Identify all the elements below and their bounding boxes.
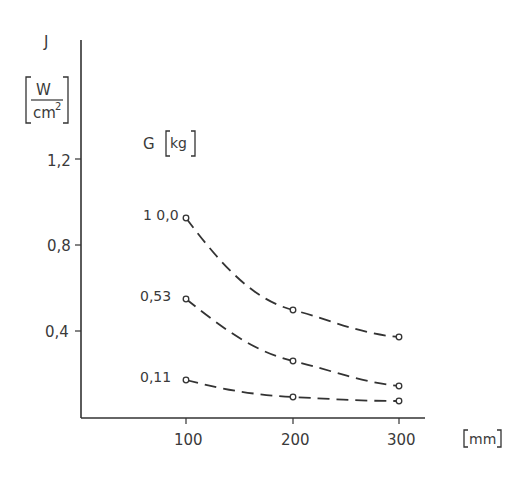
- svg-text:cm: cm: [33, 104, 56, 122]
- y-axis-symbol: J: [43, 33, 48, 51]
- chart: 1,2 0,8 0,4 100 200 300 mm J W cm 2 G kg: [0, 0, 520, 481]
- y-tick-label: 0,4: [45, 323, 69, 341]
- x-tick-label: 300: [387, 431, 416, 449]
- data-markers: [183, 215, 402, 404]
- svg-text:mm: mm: [469, 431, 496, 447]
- series-label: 1 0,0: [143, 207, 179, 223]
- x-ticks: [186, 418, 399, 424]
- svg-text:kg: kg: [170, 135, 187, 151]
- svg-text:2: 2: [55, 101, 61, 112]
- svg-text:G: G: [143, 135, 155, 153]
- svg-text:W: W: [36, 81, 51, 99]
- y-ticks: [75, 159, 81, 331]
- curve-1-0: [186, 218, 399, 337]
- y-unit-label: W cm 2: [26, 77, 68, 123]
- x-tick-label: 200: [281, 431, 310, 449]
- x-tick-label: 100: [174, 431, 203, 449]
- legend-title: G kg: [143, 131, 195, 156]
- x-unit-label: mm: [464, 430, 501, 447]
- y-tick-label: 0,8: [47, 237, 71, 255]
- y-tick-label: 1,2: [47, 152, 71, 170]
- series-label: 0,11: [140, 369, 171, 385]
- series-label: 0,53: [140, 288, 171, 304]
